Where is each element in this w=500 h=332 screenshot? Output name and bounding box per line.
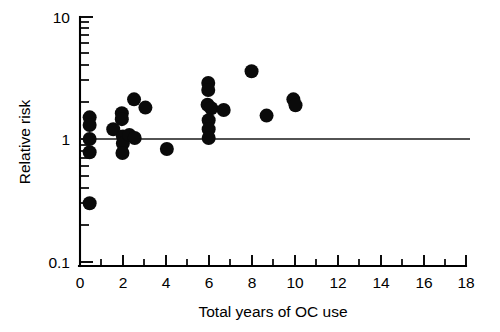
data-point	[289, 98, 303, 112]
data-point	[204, 101, 218, 115]
x-axis-ticks	[80, 255, 466, 266]
x-tick-label-18: 18	[457, 274, 474, 291]
x-tick-label-4: 4	[162, 274, 171, 291]
y-axis-title: Relative risk	[16, 100, 33, 185]
data-point	[83, 132, 97, 146]
data-point	[128, 131, 142, 145]
x-tick-label-14: 14	[372, 274, 390, 291]
y-tick-label-1: 1	[61, 131, 70, 148]
x-tick-label-2: 2	[119, 274, 128, 291]
data-points-layer	[83, 64, 303, 210]
scatter-plot: 10 1 0.1 0 2 4 6 8 10 12 14 16 18 Total …	[0, 0, 500, 332]
data-point	[83, 118, 97, 132]
x-tick-label-0: 0	[76, 274, 85, 291]
data-point	[245, 64, 259, 78]
y-tick-labels: 10 1 0.1	[48, 9, 70, 271]
x-tick-labels: 0 2 4 6 8 10 12 14 16 18	[76, 274, 475, 291]
y-tick-label-0.1: 0.1	[48, 254, 70, 271]
x-tick-label-10: 10	[286, 274, 304, 291]
x-tick-label-12: 12	[329, 274, 346, 291]
data-point	[217, 103, 231, 117]
data-point	[83, 145, 97, 159]
x-tick-label-6: 6	[205, 274, 214, 291]
data-point	[160, 142, 174, 156]
data-point	[201, 83, 215, 97]
data-point	[115, 146, 129, 160]
data-point	[260, 109, 274, 123]
data-point	[115, 112, 129, 126]
x-axis-title: Total years of OC use	[198, 303, 347, 320]
x-tick-label-16: 16	[415, 274, 432, 291]
y-tick-label-10: 10	[53, 9, 71, 26]
data-point	[138, 101, 152, 115]
chart-figure: 10 1 0.1 0 2 4 6 8 10 12 14 16 18 Total …	[0, 0, 500, 332]
data-point	[202, 131, 216, 145]
data-point	[83, 196, 97, 210]
data-point	[127, 92, 141, 106]
x-tick-label-8: 8	[248, 274, 257, 291]
